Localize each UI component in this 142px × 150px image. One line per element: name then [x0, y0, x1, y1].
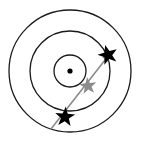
trajectory-arrow-line — [51, 60, 105, 129]
star-middle-gray-icon — [79, 77, 96, 94]
center-point-dot — [67, 68, 72, 73]
star-outer-upper-right-icon — [98, 45, 117, 65]
figure-container: Concentric orbital rings with star marke… — [0, 0, 142, 150]
orbital-diagram-svg — [0, 0, 142, 150]
